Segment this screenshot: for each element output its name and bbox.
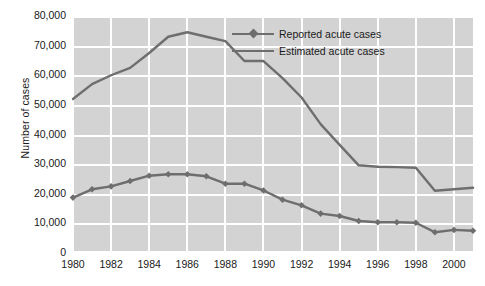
legend-label-reported: Reported acute cases: [279, 28, 381, 40]
y-axis-tick-label: 0: [0, 246, 66, 258]
y-axis-tick-label: 80,000: [0, 9, 66, 21]
x-axis-tick-label: 1994: [320, 258, 360, 270]
x-axis-tick-label: 1980: [53, 258, 93, 270]
series-marker-diamond: [241, 180, 248, 187]
series-marker-diamond: [108, 183, 115, 190]
x-axis-tick-label: 1986: [167, 258, 207, 270]
legend-item-estimated: Estimated acute cases: [232, 43, 385, 58]
series-marker-diamond: [165, 171, 172, 178]
x-axis-tick-label: 1984: [129, 258, 169, 270]
y-axis-tick-label: 20,000: [0, 187, 66, 199]
y-axis-title: Number of cases: [19, 33, 31, 203]
x-axis-tick-label: 1988: [205, 258, 245, 270]
legend-swatch-diamond-icon: [232, 28, 274, 40]
x-axis-tick-label: 2000: [434, 258, 474, 270]
series-marker-diamond: [127, 178, 134, 185]
x-axis-tick-label: 1996: [358, 258, 398, 270]
y-axis-tick-label: 30,000: [0, 157, 66, 169]
legend-item-reported: Reported acute cases: [232, 26, 385, 41]
x-axis-tick-label: 1990: [243, 258, 283, 270]
series-marker-diamond: [146, 172, 153, 179]
series-marker-diamond: [470, 227, 477, 234]
series-marker-diamond: [355, 218, 362, 225]
legend-label-estimated: Estimated acute cases: [279, 45, 385, 57]
y-axis-tick-label: 10,000: [0, 216, 66, 228]
chart-container: Number of cases 010,00020,00030,00040,00…: [0, 0, 485, 286]
x-axis-tick-label: 1998: [396, 258, 436, 270]
series-line: [73, 174, 473, 232]
chart-legend: Reported acute cases Estimated acute cas…: [232, 26, 385, 60]
series-marker-diamond: [203, 173, 210, 180]
series-marker-diamond: [374, 219, 381, 226]
series-marker-diamond: [451, 227, 458, 234]
legend-swatch-line-icon: [232, 45, 274, 57]
x-axis-tick-label: 1992: [282, 258, 322, 270]
series-marker-diamond: [336, 213, 343, 220]
series-marker-diamond: [184, 171, 191, 178]
y-axis-tick-label: 50,000: [0, 98, 66, 110]
series-marker-diamond: [222, 180, 229, 187]
x-axis-tick-label: 1982: [91, 258, 131, 270]
y-axis-tick-label: 70,000: [0, 39, 66, 51]
y-axis-tick-label: 40,000: [0, 128, 66, 140]
series-marker-diamond: [394, 219, 401, 226]
y-axis-tick-label: 60,000: [0, 68, 66, 80]
